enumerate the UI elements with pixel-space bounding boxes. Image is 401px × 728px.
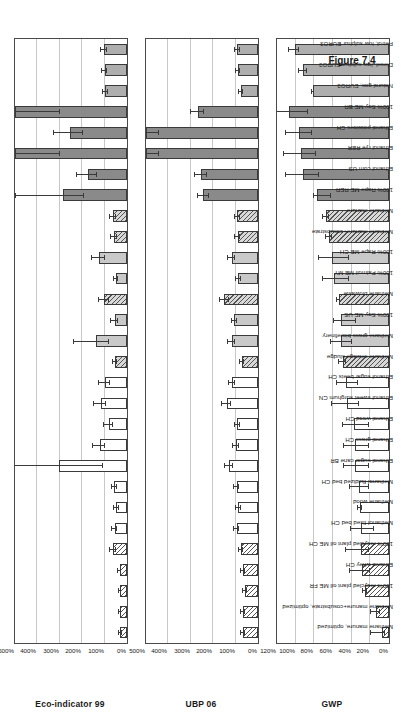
- figure-stage: Eco-indicator 990%100%200%300%400%500%UB…: [0, 0, 401, 728]
- category-label: Methane manure+cosubstrate: [312, 229, 393, 236]
- category-label: 100% Soy ME US: [344, 312, 393, 319]
- category-label: Methane sewage sludge: [327, 354, 393, 361]
- category-label: Methane manure: [347, 208, 393, 215]
- category-label: Ethanol potatoes CH: [337, 125, 393, 132]
- figure-7-4: Eco-indicator 990%100%200%300%400%500%UB…: [0, 0, 401, 728]
- y-axis-tick-label: 120%: [260, 647, 276, 654]
- error-bar-cap: [318, 172, 319, 177]
- y-axis-tick-label: 80%: [301, 647, 313, 654]
- category-label: Ethanol sugar beets CH: [328, 374, 393, 381]
- error-bar-cap: [313, 193, 314, 198]
- error-bar-cap: [306, 68, 307, 73]
- error-bar-cap: [343, 443, 344, 448]
- category-label: Natural gas, EURO3: [337, 83, 393, 90]
- category-label: Diesel, low sulphur EURO3: [319, 62, 393, 69]
- category-label: 100% Rape ME RER: [336, 187, 393, 194]
- error-bar: [323, 278, 349, 279]
- error-bar-cap: [333, 318, 334, 323]
- error-bar: [344, 465, 369, 466]
- error-bar-cap: [322, 276, 323, 281]
- category-label: 100% recycled plant oil ME FR: [310, 583, 393, 590]
- error-bar: [331, 341, 352, 342]
- axis-title: GWP: [322, 699, 343, 709]
- error-bar-cap: [322, 214, 323, 219]
- category-label: Ethanol sweet sorghum CN: [319, 395, 393, 402]
- error-bar-cap: [307, 109, 308, 114]
- error-bar-cap: [342, 422, 343, 427]
- error-bar-cap: [313, 89, 314, 94]
- error-bar: [334, 320, 356, 321]
- error-bar: [350, 570, 371, 571]
- y-axis-tick-label: 20%: [357, 647, 369, 654]
- error-bar: [286, 132, 311, 133]
- error-bar-cap: [283, 151, 284, 156]
- error-bar-cap: [315, 151, 316, 156]
- category-label: Methane manure, optimized: [317, 624, 393, 631]
- error-bar: [314, 195, 331, 196]
- category-label: Methanol fixed bed CH: [331, 520, 393, 527]
- category-label: 100% Rape ME CH: [340, 250, 393, 257]
- category-label: 100% recycled plant oil ME CH: [309, 541, 393, 548]
- y-axis-tick-label: 0%: [379, 647, 388, 654]
- category-label: Methane biowaste: [344, 291, 393, 298]
- error-bar-cap: [318, 255, 319, 260]
- error-bar-cap: [311, 130, 312, 135]
- y-axis-tick-label: 40%: [338, 647, 350, 654]
- category-label: Methane manure+cosubstrate, optimized: [282, 604, 393, 611]
- category-label: Methane grass biorefinery: [323, 333, 393, 340]
- error-bar: [277, 111, 308, 112]
- error-bar: [284, 153, 316, 154]
- error-bar-cap: [288, 47, 289, 52]
- error-bar-cap: [328, 214, 329, 219]
- error-bar-cap: [285, 172, 286, 177]
- y-axis-tick-label: 100%: [279, 647, 295, 654]
- error-bar-cap: [276, 109, 277, 114]
- error-bar: [343, 424, 369, 425]
- category-label: Ethanol whey CH: [346, 562, 393, 569]
- error-bar-cap: [298, 47, 299, 52]
- error-bar-cap: [336, 297, 337, 302]
- error-bar-cap: [285, 130, 286, 135]
- error-bar: [344, 445, 369, 446]
- error-bar-cap: [339, 297, 340, 302]
- category-label: Ethanol corn US: [349, 166, 393, 173]
- error-bar: [346, 549, 369, 550]
- category-label: Ethanol sugar cane BR: [330, 458, 393, 465]
- category-label: Petrol, low sulphur EURO3: [320, 41, 393, 48]
- error-bar: [351, 528, 374, 529]
- error-bar-cap: [311, 89, 312, 94]
- category-label: Methanol fluidized bed CH: [322, 479, 393, 486]
- category-label: 100% Palmoil ME MY: [334, 270, 393, 277]
- error-bar-cap: [330, 193, 331, 198]
- category-label: Ethanol rye RER: [348, 145, 393, 152]
- y-axis-tick-label: 60%: [320, 647, 332, 654]
- error-bar: [337, 382, 358, 383]
- error-bar: [350, 486, 370, 487]
- category-label: Methane wood: [353, 499, 393, 506]
- error-bar: [332, 403, 359, 404]
- category-label: Ethanol grass CH: [345, 437, 393, 444]
- category-label: Ethanol wood CH: [346, 416, 393, 423]
- category-label: 100% Soy ME BR: [344, 104, 393, 111]
- error-bar-cap: [298, 68, 299, 73]
- error-bar: [371, 632, 385, 633]
- error-bar: [319, 257, 349, 258]
- error-bar: [286, 174, 319, 175]
- chart-panel-gwp: GWP0%20%40%60%80%100%120%: [0, 0, 401, 728]
